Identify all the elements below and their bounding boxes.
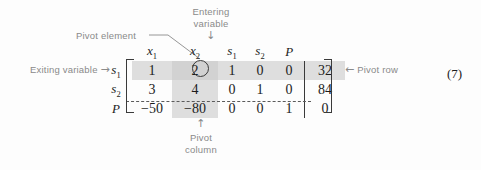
column-header-x2: x2 — [172, 42, 218, 61]
table-row: s2 3 4 0 1 0 84 — [106, 80, 345, 99]
equation-number: (7) — [447, 66, 462, 82]
cell-r2-s2: 1 — [246, 80, 274, 99]
column-header-p: P — [274, 42, 305, 61]
tableau-table: x1 x2 s1 s2 P s1 1 2 1 0 0 32 s2 3 4 0 — [106, 42, 345, 118]
cell-r1-x2-pivot: 2 — [172, 61, 218, 80]
table-row: s1 1 2 1 0 0 32 — [106, 61, 345, 80]
matrix-right-bracket — [324, 59, 332, 113]
cell-r2-s1: 0 — [218, 80, 246, 99]
column-header-s2: s2 — [246, 42, 274, 61]
cell-r1-s1: 1 — [218, 61, 246, 80]
cell-r1-x1: 1 — [132, 61, 172, 80]
tableau-matrix: x1 x2 s1 s2 P s1 1 2 1 0 0 32 s2 3 4 0 — [106, 42, 345, 118]
cell-r2-x1: 3 — [132, 80, 172, 99]
cell-r2-x2: 4 — [172, 80, 218, 99]
column-header-s1: s1 — [218, 42, 246, 61]
objective-row-separator — [126, 101, 311, 102]
cell-r2-p: 0 — [274, 80, 305, 99]
matrix-left-bracket — [126, 59, 134, 113]
column-header-row: x1 x2 s1 s2 P — [106, 42, 345, 61]
column-header-x1: x1 — [132, 42, 172, 61]
simplex-tableau-figure: Entering variable ↓ Pivot element Exitin… — [0, 0, 481, 170]
cell-r1-s2: 0 — [246, 61, 274, 80]
cell-r1-p: 0 — [274, 61, 305, 80]
